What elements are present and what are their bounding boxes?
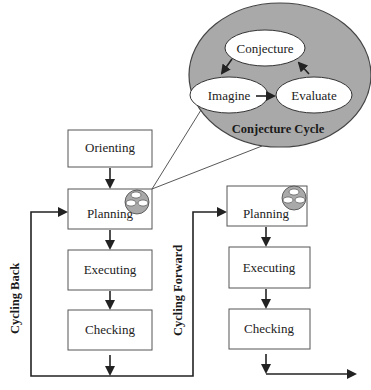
cycling-back-label: Cycling Back bbox=[8, 263, 22, 334]
loop-line-forward bbox=[110, 212, 225, 376]
mini-cycle-icon bbox=[282, 186, 306, 210]
cycle-node-imagine: Imagine bbox=[190, 77, 268, 113]
box-executing-right: Executing bbox=[229, 247, 310, 288]
box-label: Executing bbox=[84, 262, 137, 277]
box-label: Orienting bbox=[85, 140, 135, 155]
cycling-back-loop: Cycling Back bbox=[8, 212, 110, 376]
cycling-forward-loop: Cycling Forward bbox=[110, 212, 225, 376]
box-planning-left: Planning bbox=[68, 189, 152, 229]
cycling-forward-label: Cycling Forward bbox=[171, 245, 185, 336]
box-label: Planning bbox=[243, 206, 290, 221]
box-label: Checking bbox=[85, 322, 135, 337]
right-column: Planning Executing Checking bbox=[227, 186, 355, 374]
box-label: Checking bbox=[244, 321, 294, 336]
cycle-node-conjecture: Conjecture bbox=[225, 30, 305, 66]
problem-solving-diagram: Conjecture Imagine Evaluate Conjecture C… bbox=[0, 0, 371, 390]
left-column: Orienting Planning Executing Checking bbox=[68, 130, 152, 374]
cycle-node-evaluate: Evaluate bbox=[276, 77, 352, 113]
conjecture-cycle: Conjecture Imagine Evaluate Conjecture C… bbox=[189, 3, 371, 147]
box-checking-left: Checking bbox=[68, 310, 152, 350]
box-planning-right: Planning bbox=[227, 186, 307, 226]
cycle-node-label: Conjecture bbox=[236, 41, 293, 56]
mini-cycle-icon bbox=[125, 190, 149, 214]
box-checking-right: Checking bbox=[229, 309, 310, 349]
loop-line-back bbox=[31, 212, 110, 376]
cycle-node-label: Evaluate bbox=[291, 88, 337, 103]
callout-line-top bbox=[152, 110, 201, 189]
cycle-title: Conjecture Cycle bbox=[232, 122, 325, 136]
box-executing-left: Executing bbox=[68, 250, 152, 290]
box-orienting: Orienting bbox=[68, 130, 152, 167]
callout-line-bottom bbox=[152, 146, 262, 189]
box-label: Executing bbox=[243, 260, 296, 275]
cycle-node-label: Imagine bbox=[208, 88, 251, 103]
